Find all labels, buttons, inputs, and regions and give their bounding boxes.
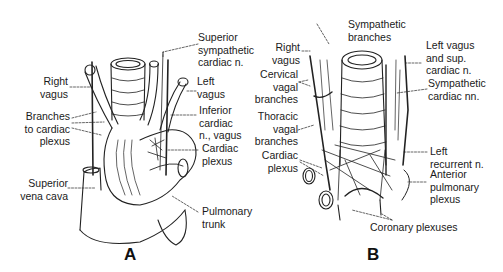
label-thoracic-vagal-branches: Thoracic vagal branches (250, 110, 298, 148)
label-pulmonary-trunk: Pulmonary trunk (202, 205, 252, 230)
label-cardiac-plexus-b: Cardiac plexus (250, 149, 298, 174)
label-branches-to-cardiac-plexus: Branches to cardiac plexus (8, 110, 70, 148)
label-superior-sympathetic-cardiac-n: Superior sympathetic cardiac n. (198, 31, 254, 69)
label-coronary-plexuses: Coronary plexuses (370, 221, 458, 234)
label-anterior-pulmonary-plexus: Anterior pulmonary plexus (430, 168, 479, 206)
label-left-vagus-sup-cardiac-n: Left vagus and sup. cardiac n. (426, 39, 474, 77)
panel-letter-a: A (124, 245, 136, 265)
label-inferior-cardiac-n-vagus: Inferior cardiac n., vagus (199, 104, 242, 142)
panel-b-plexus-drawing (303, 51, 410, 220)
label-right-vagus-a: Right vagus (30, 75, 68, 100)
label-left-recurrent-n: Left recurrent n. (430, 145, 484, 170)
label-left-vagus-a: Left vagus (197, 75, 225, 100)
label-right-vagus-b: Right vagus (258, 41, 300, 66)
label-sympathetic-branches: Sympathetic branches (348, 18, 406, 43)
label-cervical-vagal-branches: Cervical vagal branches (250, 68, 298, 106)
label-sympathetic-cardiac-nn: Sympathetic cardiac nn. (428, 77, 486, 102)
label-superior-vena-cava: Superior vena cava (8, 177, 68, 202)
anatomy-figure: Superior sympathetic cardiac n. Right va… (0, 0, 503, 272)
panel-letter-b: B (367, 245, 379, 265)
label-cardiac-plexus-a: Cardiac plexus (202, 142, 238, 167)
panel-a-heart-drawing (80, 52, 196, 245)
